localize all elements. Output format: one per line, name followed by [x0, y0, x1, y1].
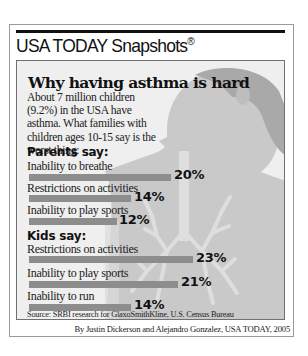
- bar-label: Inability to play sports: [27, 203, 128, 218]
- bar-value: 20%: [174, 167, 204, 182]
- bar-label: Restrictions on activities: [27, 242, 138, 257]
- bar-label: Inability to run: [27, 289, 94, 304]
- brand-text: USA TODAY Snapshots: [16, 35, 187, 56]
- byline: By Justin Dickerson and Alejandro Gonzal…: [74, 324, 290, 334]
- bar-label: Inability to breathe: [27, 159, 112, 174]
- brand-title: USA TODAY Snapshots®: [16, 35, 194, 57]
- group-heading-parents: Parents say:: [27, 145, 108, 159]
- bar-value: 14%: [134, 189, 164, 204]
- group-heading-kids: Kids say:: [27, 229, 86, 243]
- bar-value: 21%: [181, 274, 211, 289]
- source-note: Source: SRBI research for GlaxoSmithKlin…: [27, 310, 234, 319]
- graphic-panel: Why having asthma is hard About 7 millio…: [16, 60, 285, 320]
- bar-label: Inability to play sports: [27, 266, 128, 281]
- bar-parents-breathe: [29, 174, 171, 181]
- bar-kids-activities: [29, 256, 193, 263]
- chart-title: Why having asthma is hard: [28, 73, 249, 92]
- bar-label: Restrictions on activities: [27, 181, 138, 196]
- bar-kids-sports: [29, 281, 178, 288]
- registered-mark: ®: [187, 35, 194, 47]
- bar-parents-activities: [29, 195, 131, 202]
- bar-value: 23%: [196, 250, 226, 265]
- bar-parents-sports: [29, 218, 117, 225]
- header-rule: [16, 30, 285, 33]
- bar-value: 12%: [119, 212, 149, 227]
